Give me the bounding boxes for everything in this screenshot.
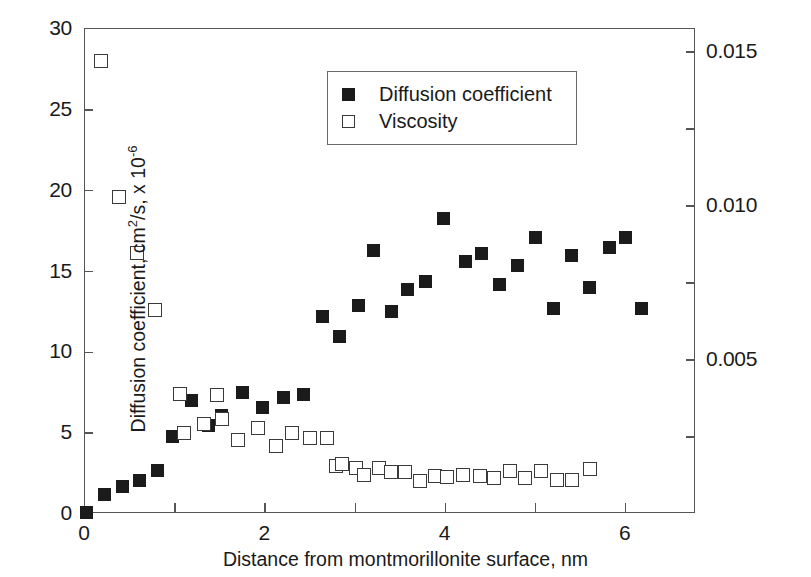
y-axis-right-minor-tick-0.0025 bbox=[686, 436, 694, 438]
data-point-diffusion bbox=[151, 464, 164, 477]
data-point-diffusion bbox=[493, 278, 506, 291]
x-axis-title: Distance from montmorillonite surface, n… bbox=[0, 548, 811, 571]
data-point-diffusion bbox=[635, 302, 648, 315]
data-point-viscosity bbox=[550, 473, 564, 487]
data-point-diffusion bbox=[419, 275, 432, 288]
y-axis-right-minor-tick-0.0125 bbox=[686, 128, 694, 130]
x-axis-tick-2 bbox=[264, 503, 266, 512]
data-point-diffusion bbox=[619, 231, 632, 244]
data-point-diffusion bbox=[333, 330, 346, 343]
y-axis-left-tick-25 bbox=[85, 109, 93, 111]
data-point-viscosity bbox=[503, 464, 517, 478]
data-point-diffusion bbox=[401, 283, 414, 296]
y-axis-left-title-prefix: Diffusion coefficient, cm bbox=[127, 227, 149, 432]
data-point-viscosity bbox=[534, 464, 548, 478]
data-point-diffusion bbox=[583, 281, 596, 294]
data-point-viscosity bbox=[398, 465, 412, 479]
x-axis-tick-5 bbox=[535, 503, 537, 512]
data-point-viscosity bbox=[473, 469, 487, 483]
data-point-viscosity bbox=[251, 421, 265, 435]
y-axis-left-tick-5 bbox=[85, 432, 93, 434]
y-axis-left-tick-label-25: 25 bbox=[0, 97, 72, 121]
legend-item-diffusion-coefficient: Diffusion coefficient bbox=[342, 81, 564, 108]
x-axis-tick-4 bbox=[445, 503, 447, 512]
data-point-diffusion bbox=[277, 391, 290, 404]
data-point-viscosity bbox=[177, 426, 191, 440]
data-point-viscosity bbox=[583, 462, 597, 476]
x-axis-tick-6 bbox=[625, 503, 627, 512]
data-point-viscosity bbox=[210, 388, 224, 402]
data-point-viscosity bbox=[269, 439, 283, 453]
data-point-diffusion bbox=[547, 302, 560, 315]
y-axis-right-tick-0.005 bbox=[686, 359, 694, 361]
x-axis-tick-3 bbox=[355, 503, 357, 512]
x-axis-tick-label-0: 0 bbox=[78, 521, 89, 545]
data-point-diffusion bbox=[385, 305, 398, 318]
data-point-viscosity bbox=[335, 457, 349, 471]
data-point-viscosity bbox=[518, 471, 532, 485]
y-axis-right-tick-label-0.010: 0.010 bbox=[706, 193, 757, 217]
data-point-viscosity bbox=[413, 474, 427, 488]
data-point-diffusion bbox=[133, 474, 146, 487]
legend-label-viscosity: Viscosity bbox=[379, 110, 458, 133]
y-axis-left-tick-label-30: 30 bbox=[0, 16, 72, 40]
plot-area: Diffusion coefficient Viscosity bbox=[84, 28, 695, 513]
data-point-viscosity bbox=[215, 412, 229, 426]
data-point-viscosity bbox=[384, 465, 398, 479]
data-point-diffusion bbox=[475, 247, 488, 260]
data-point-diffusion bbox=[565, 249, 578, 262]
data-point-diffusion bbox=[256, 401, 269, 414]
y-axis-left-tick-label-0: 0 bbox=[0, 501, 72, 525]
y-axis-left-tick-label-15: 15 bbox=[0, 259, 72, 283]
data-point-viscosity bbox=[285, 426, 299, 440]
data-point-diffusion bbox=[236, 386, 249, 399]
data-point-viscosity bbox=[487, 471, 501, 485]
data-point-viscosity bbox=[456, 468, 470, 482]
y-axis-left-title-superscript-minus6: -6 bbox=[125, 145, 140, 157]
data-point-viscosity bbox=[357, 468, 371, 482]
data-point-viscosity bbox=[231, 433, 245, 447]
data-point-viscosity bbox=[320, 431, 334, 445]
filled-square-icon bbox=[342, 88, 355, 101]
legend-label-diffusion-coefficient: Diffusion coefficient bbox=[379, 83, 552, 106]
y-axis-right-tick-label-0.015: 0.015 bbox=[706, 39, 757, 63]
y-axis-left-tick-label-5: 5 bbox=[0, 420, 72, 444]
x-axis-tick-label-4: 4 bbox=[439, 521, 450, 545]
data-point-viscosity bbox=[94, 54, 108, 68]
data-point-diffusion bbox=[98, 488, 111, 501]
y-axis-left-tick-label-10: 10 bbox=[0, 339, 72, 363]
data-point-diffusion bbox=[116, 480, 129, 493]
y-axis-left-tick-10 bbox=[85, 352, 93, 354]
y-axis-left-tick-label-20: 20 bbox=[0, 178, 72, 202]
data-point-diffusion bbox=[511, 259, 524, 272]
data-point-viscosity bbox=[440, 470, 454, 484]
data-point-viscosity bbox=[197, 417, 211, 431]
data-point-diffusion bbox=[352, 299, 365, 312]
legend-item-viscosity: Viscosity bbox=[342, 108, 564, 135]
data-point-viscosity bbox=[303, 431, 317, 445]
y-axis-left-title-superscript-2: 2 bbox=[125, 219, 140, 226]
data-point-diffusion bbox=[185, 394, 198, 407]
data-point-diffusion bbox=[80, 506, 93, 519]
y-axis-left-tick-15 bbox=[85, 271, 93, 273]
data-point-diffusion bbox=[459, 255, 472, 268]
data-point-diffusion bbox=[603, 241, 616, 254]
chart-legend: Diffusion coefficient Viscosity bbox=[327, 71, 577, 145]
data-point-viscosity bbox=[148, 303, 162, 317]
data-point-viscosity bbox=[565, 473, 579, 487]
y-axis-right-tick-label-0.005: 0.005 bbox=[706, 347, 757, 371]
y-axis-left-title: Diffusion coefficient, cm2/s, x 10-6 bbox=[125, 145, 150, 432]
y-axis-left-tick-20 bbox=[85, 190, 93, 192]
open-square-icon bbox=[342, 115, 355, 128]
y-axis-right-tick-0.01 bbox=[686, 205, 694, 207]
x-axis-tick-label-6: 6 bbox=[619, 521, 630, 545]
x-axis-tick-1 bbox=[174, 503, 176, 512]
data-point-viscosity bbox=[112, 190, 126, 204]
data-point-diffusion bbox=[437, 212, 450, 225]
data-point-viscosity bbox=[173, 387, 187, 401]
x-axis-tick-label-2: 2 bbox=[259, 521, 270, 545]
y-axis-right-tick-0.015 bbox=[686, 51, 694, 53]
data-point-diffusion bbox=[367, 244, 380, 257]
data-point-diffusion bbox=[297, 388, 310, 401]
data-point-diffusion bbox=[529, 231, 542, 244]
